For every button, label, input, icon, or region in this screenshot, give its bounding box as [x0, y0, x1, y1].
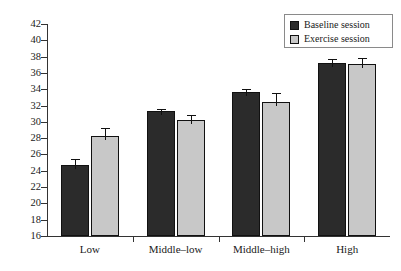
- y-tick-label-wrap: 40: [0, 35, 41, 45]
- bar: [177, 120, 205, 236]
- x-category-label: Low: [47, 243, 133, 256]
- bar: [262, 102, 290, 236]
- y-tick-label: 36: [5, 68, 41, 78]
- y-tick-label-wrap: 34: [0, 84, 41, 94]
- y-tick-label-wrap: 30: [0, 117, 41, 127]
- legend-item: Baseline session: [290, 19, 387, 31]
- y-tick-label-wrap: 42: [0, 19, 41, 29]
- legend-label: Exercise session: [304, 34, 370, 44]
- bar: [318, 63, 346, 236]
- error-bar-cap: [101, 128, 110, 129]
- x-tick: [219, 236, 220, 242]
- y-tick-label-wrap: 38: [0, 52, 41, 62]
- x-category-label: Middle–low: [133, 243, 219, 256]
- bar-chart: Score (items correct) 161820222426283032…: [0, 0, 401, 271]
- error-bar: [191, 115, 192, 125]
- y-tick: [41, 236, 47, 237]
- error-bar-cap: [272, 93, 281, 94]
- error-bar: [105, 128, 106, 140]
- x-tick: [133, 236, 134, 242]
- error-bar-cap: [328, 59, 337, 60]
- y-tick-label: 32: [5, 101, 41, 111]
- y-tick-label: 34: [5, 84, 41, 94]
- y-tick-label: 42: [5, 19, 41, 29]
- error-bar-cap: [358, 58, 367, 59]
- error-bar: [276, 93, 277, 106]
- y-tick-label-wrap: 24: [0, 166, 41, 176]
- legend: Baseline sessionExercise session: [284, 14, 393, 48]
- y-tick-label: 40: [5, 35, 41, 45]
- error-bar: [75, 159, 76, 170]
- y-tick-label-wrap: 18: [0, 215, 41, 225]
- bar: [91, 136, 119, 236]
- x-category-label: High: [304, 243, 390, 256]
- error-bar-cap: [242, 89, 251, 90]
- error-bar-cap: [157, 109, 166, 110]
- y-tick-label-wrap: 22: [0, 182, 41, 192]
- legend-swatch-icon: [290, 35, 299, 44]
- y-tick-label: 16: [5, 231, 41, 241]
- bar: [348, 64, 376, 236]
- y-tick-label-wrap: 20: [0, 198, 41, 208]
- plot-area: [47, 24, 390, 236]
- y-tick-label-wrap: 16: [0, 231, 41, 241]
- y-tick-label-wrap: 26: [0, 149, 41, 159]
- y-tick-label-wrap: 32: [0, 101, 41, 111]
- error-bar-cap: [71, 159, 80, 160]
- bar: [61, 165, 89, 236]
- y-tick-label: 24: [5, 166, 41, 176]
- y-tick-label: 18: [5, 215, 41, 225]
- bar: [232, 92, 260, 236]
- y-tick-label: 20: [5, 198, 41, 208]
- y-tick-label-wrap: 36: [0, 68, 41, 78]
- bar: [147, 111, 175, 236]
- legend-swatch-icon: [290, 21, 299, 30]
- y-tick-label: 28: [5, 133, 41, 143]
- legend-item: Exercise session: [290, 33, 387, 45]
- legend-label: Baseline session: [304, 20, 370, 30]
- y-tick-label: 22: [5, 182, 41, 192]
- x-tick: [304, 236, 305, 242]
- x-category-label: Middle–high: [219, 243, 305, 256]
- y-tick-label-wrap: 28: [0, 133, 41, 143]
- error-bar-cap: [187, 115, 196, 116]
- y-tick-label: 26: [5, 149, 41, 159]
- error-bar: [362, 58, 363, 68]
- error-bar: [332, 59, 333, 67]
- y-tick-label: 30: [5, 117, 41, 127]
- y-tick-label: 38: [5, 52, 41, 62]
